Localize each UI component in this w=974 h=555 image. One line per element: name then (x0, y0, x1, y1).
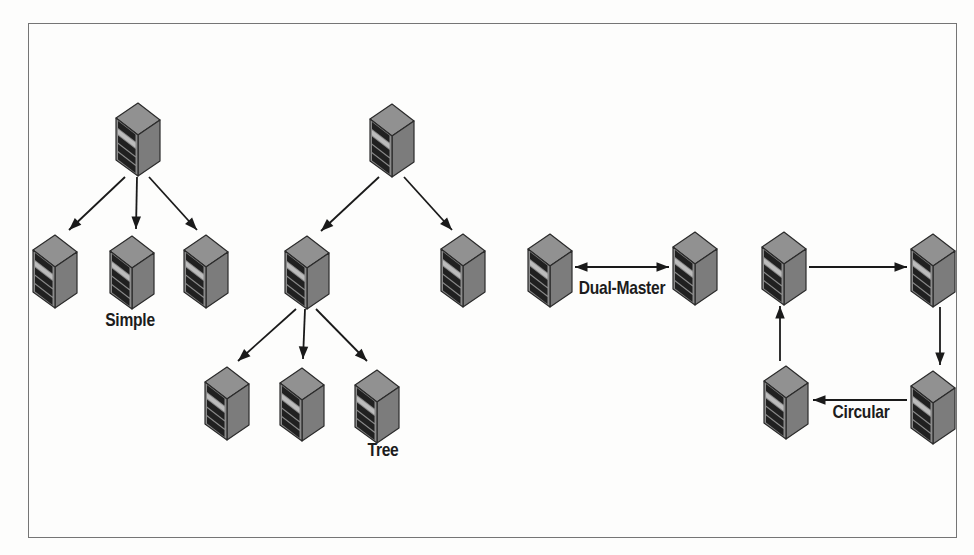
server-icon (33, 235, 77, 308)
server-icon (205, 367, 249, 440)
server-icon (762, 232, 806, 305)
server-icon (110, 236, 154, 309)
server-icon (764, 366, 808, 439)
arrowhead (575, 262, 588, 272)
server-icon (911, 234, 955, 307)
label-simple: Simple (105, 309, 155, 331)
figure-canvas: Simple Tree Dual-Master Circular (0, 0, 974, 555)
replication-topologies-diagram (0, 0, 974, 555)
server-icon (528, 234, 572, 307)
arrowhead (775, 306, 785, 319)
server-icon (370, 104, 414, 177)
server-icon (280, 368, 324, 441)
server-icon (184, 235, 228, 308)
label-tree: Tree (367, 439, 398, 461)
arrowhead (935, 353, 945, 366)
server-icon (441, 234, 485, 307)
topology-tree (205, 104, 485, 443)
topology-simple (33, 103, 228, 309)
server-icon (355, 370, 399, 443)
server-icon (285, 236, 329, 309)
label-dual-master: Dual-Master (579, 277, 665, 299)
server-icon (116, 103, 160, 176)
server-icon (673, 232, 717, 305)
arrowhead (895, 262, 908, 272)
arrowhead (299, 346, 308, 359)
server-icon (911, 371, 955, 444)
label-circular: Circular (833, 401, 890, 423)
arrowhead (131, 216, 140, 229)
arrowhead (657, 262, 670, 272)
arrowhead (813, 395, 826, 405)
